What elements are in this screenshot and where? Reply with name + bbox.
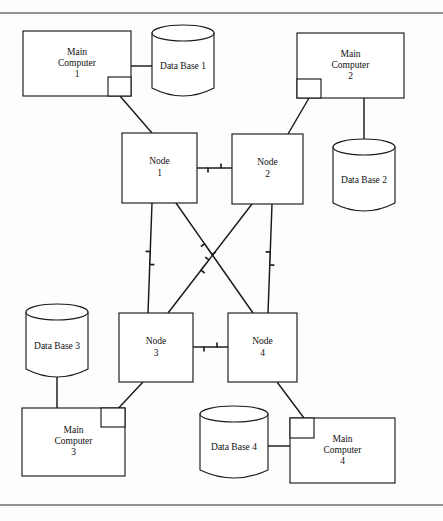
link-node2-node4-lightning-icon [266,252,275,265]
link-node4-mc4 [277,382,304,418]
main-computer-4-port-notch [290,418,314,438]
main-computer-3-port-notch [101,408,125,427]
link-mc2-node2 [288,98,309,134]
data-base-3: Data Base 3 [26,304,88,377]
main-computer-4-line1: Main [332,434,352,444]
data-base-1-top-ellipse [152,25,214,41]
data-base-4-label: Data Base 4 [211,442,257,452]
main-computer-1-port-notch [108,77,131,96]
data-base-2: Data Base 2 [333,139,395,211]
main-computer-4-line3: 4 [340,456,345,466]
node-3-line2: 3 [154,348,159,358]
main-computer-2-line1: Main [340,49,360,59]
node-1: Node1 [122,133,197,203]
main-computer-1: MainComputer1 [23,31,131,96]
data-base-3-label: Data Base 3 [34,341,80,351]
link-node1-node4-segment-b [212,255,253,313]
main-computer-1-line1: Main [67,47,87,57]
link-node3-node4-lightning-icon [204,342,217,351]
main-computer-2-line2: Computer [332,60,371,70]
main-computer-3-line1: Main [63,425,83,435]
data-base-4-top-ellipse [200,406,268,422]
link-node1-node3-segment-a [150,203,152,252]
data-base-1-label: Data Base 1 [160,61,206,71]
main-computer-4: MainComputer4 [290,418,395,483]
node-2-line2: 2 [265,169,270,179]
data-base-2-top-ellipse [333,139,395,155]
node-2-line1: Node [257,157,278,167]
node-1-line1: Node [149,156,170,166]
link-node2-node3-lightning-icon [201,257,209,273]
link-node2-node3-segment-b [168,270,201,313]
main-computer-2-port-notch [297,79,321,98]
link-node1-node2-lightning-icon [208,163,221,172]
link-mc1-node1 [120,96,152,133]
main-computer-3: MainComputer3 [22,408,125,476]
main-computer-3-line3: 3 [71,447,76,457]
link-node1-node4-segment-a [176,203,205,244]
data-base-2-label: Data Base 2 [341,175,387,185]
node-3-line1: Node [146,336,167,346]
link-node1-node3-segment-b [148,264,150,313]
network-diagram-figure: Data Base 1Data Base 2Data Base 3Data Ba… [0,0,443,521]
node-2: Node2 [232,134,303,204]
link-node1-node3-lightning-icon [146,251,155,264]
data-base-3-top-ellipse [26,304,88,320]
link-node2-node4-segment-b [268,265,270,313]
main-computer-3-line2: Computer [55,436,94,446]
main-computer-1-line2: Computer [58,58,97,68]
data-base-4: Data Base 4 [200,406,268,478]
data-base-1: Data Base 1 [152,25,214,96]
node-3: Node3 [119,313,193,382]
link-node2-node4-segment-a [270,204,272,252]
main-computer-1-line3: 1 [75,69,80,79]
diagram-canvas: Data Base 1Data Base 2Data Base 3Data Ba… [0,0,443,521]
node-4-line1: Node [252,336,273,346]
node-1-line2: 1 [157,168,162,178]
node-4: Node4 [228,313,297,382]
link-node2-node3-segment-a [209,204,252,260]
main-computer-2: MainComputer2 [297,33,404,98]
node-4-line2: 4 [260,348,265,358]
main-computer-2-line3: 2 [348,71,353,81]
plain-link-layer [57,66,364,446]
main-computer-4-line2: Computer [324,445,363,455]
